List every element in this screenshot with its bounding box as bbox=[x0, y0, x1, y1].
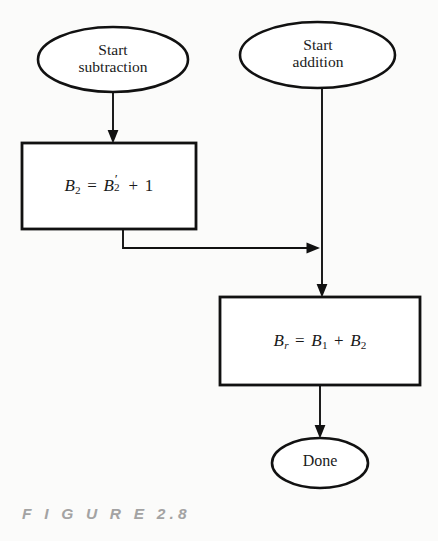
formula2-op1-base: B bbox=[311, 331, 322, 350]
start-addition-line-2: addition bbox=[238, 53, 398, 70]
formula1-lhs-sub: 2 bbox=[75, 184, 81, 196]
edge-add-to-done bbox=[315, 385, 326, 439]
node-start-addition-label: Start addition bbox=[238, 36, 398, 71]
edge-addition-to-add bbox=[317, 88, 328, 298]
formula1-plus: + bbox=[129, 176, 139, 195]
start-subtraction-line-1: Start bbox=[98, 41, 127, 58]
formula2-lhs-sub: r bbox=[284, 339, 288, 351]
flowchart-canvas bbox=[0, 0, 438, 541]
formula2-lhs-base: B bbox=[274, 331, 285, 350]
node-done-label: Done bbox=[272, 452, 368, 470]
formula2-op2-base: B bbox=[350, 331, 361, 350]
formula2-plus: + bbox=[334, 331, 344, 350]
node-process-add-formula: Br = B1 + B2 bbox=[220, 331, 420, 352]
formula1-rhs-base: B bbox=[103, 176, 114, 195]
node-process-twos-complement-formula: B2 = B′2 + 1 bbox=[22, 176, 196, 197]
formula2-lhs-sub-text: r bbox=[284, 339, 288, 351]
edge-subtraction-to-complement bbox=[108, 92, 119, 144]
figure-caption: F I G U R E 2.8 bbox=[22, 505, 191, 523]
formula2-equals: = bbox=[295, 331, 305, 350]
formula1-equals: = bbox=[87, 176, 97, 195]
start-addition-line-1: Start bbox=[303, 36, 332, 53]
formula1-addend: 1 bbox=[145, 176, 154, 195]
formula1-rhs-sub: 2 bbox=[114, 181, 120, 194]
start-subtraction-line-2: subtraction bbox=[33, 58, 193, 75]
edge-complement-to-merge bbox=[123, 229, 320, 253]
formula1-rhs-b-prime: B′2 bbox=[103, 176, 114, 195]
formula1-lhs-base: B bbox=[64, 176, 75, 195]
formula2-op2-sub: 2 bbox=[361, 339, 367, 351]
node-start-subtraction-label: Start subtraction bbox=[33, 41, 193, 76]
figure-container: Start subtraction Start addition B2 = B′… bbox=[0, 0, 438, 541]
